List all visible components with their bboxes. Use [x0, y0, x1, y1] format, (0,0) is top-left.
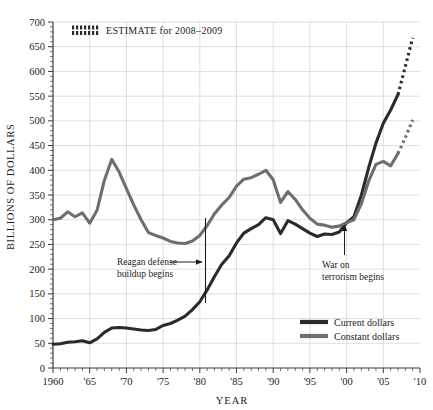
x-axis-title: YEAR: [216, 395, 249, 406]
y-tick-label: 450: [29, 140, 45, 151]
defense-spending-chart: 0501001502002503003504004505005506006507…: [0, 0, 433, 410]
war-terrorism-line2: terrorism begins: [322, 272, 384, 282]
x-tick-label: '95: [304, 376, 316, 387]
x-tick-label: '10: [414, 376, 426, 387]
x-tick-label: '75: [157, 376, 169, 387]
estimate-swatch-top: [72, 26, 100, 30]
reagan-annotation-line2: buildup begins: [117, 269, 174, 279]
x-tick-label: '70: [120, 376, 132, 387]
y-tick-label: 550: [29, 91, 45, 102]
legend-label: Current dollars: [334, 317, 394, 328]
estimate-legend-label: ESTIMATE for 2008–2009: [106, 25, 223, 36]
y-tick-label: 250: [29, 239, 45, 250]
y-tick-label: 500: [29, 115, 45, 126]
x-tick-label: '90: [267, 376, 279, 387]
y-tick-label: 300: [29, 214, 45, 225]
y-tick-label: 700: [29, 17, 45, 28]
y-tick-label: 600: [29, 66, 45, 77]
war-terrorism-line1: War on: [322, 260, 350, 270]
y-tick-label: 200: [29, 264, 45, 275]
y-tick-label: 150: [29, 288, 45, 299]
y-tick-label: 400: [29, 165, 45, 176]
chart-canvas: 0501001502002503003504004505005506006507…: [0, 0, 433, 410]
y-tick-label: 100: [29, 313, 45, 324]
estimate-swatch-bottom: [72, 31, 100, 35]
y-tick-label: 350: [29, 190, 45, 201]
y-tick-label: 0: [40, 363, 45, 374]
legend-label: Constant dollars: [334, 331, 399, 342]
x-tick-label: '65: [83, 376, 95, 387]
y-tick-label: 50: [35, 338, 46, 349]
x-tick-label: 1960: [43, 376, 64, 387]
chart-background: [0, 0, 433, 410]
y-tick-label: 650: [29, 41, 45, 52]
x-tick-label: '85: [230, 376, 242, 387]
x-tick-label: '00: [340, 376, 352, 387]
x-tick-label: '80: [194, 376, 206, 387]
reagan-annotation-line1: Reagan defense: [117, 257, 177, 267]
x-tick-label: '05: [377, 376, 389, 387]
y-axis-title: BILLIONS OF DOLLARS: [5, 124, 16, 250]
